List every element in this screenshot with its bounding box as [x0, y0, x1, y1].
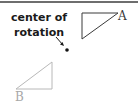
arrow-icon — [56, 37, 64, 46]
rotation-diagram: center of rotation A B — [0, 0, 138, 112]
center-of-rotation-point — [65, 48, 69, 52]
triangle-a-label: A — [118, 10, 127, 22]
triangle-b — [16, 62, 52, 89]
triangle-b-label: B — [15, 91, 24, 103]
triangle-a — [82, 13, 118, 39]
